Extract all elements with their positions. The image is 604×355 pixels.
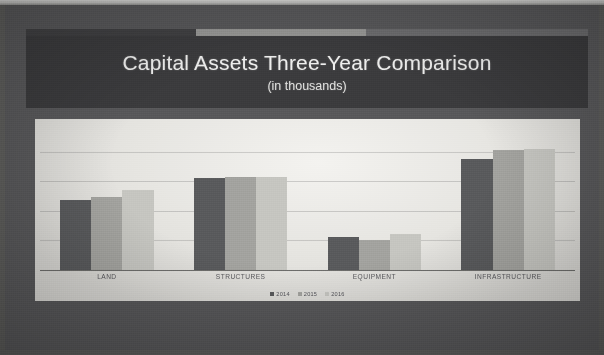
category-axis-labels: LANDSTRUCTURESEQUIPMENTINFRASTRUCTURE <box>40 273 575 287</box>
bar-equipment-2015 <box>359 240 390 270</box>
bar-structures-2015 <box>225 177 256 270</box>
bar-infrastructure-2015 <box>493 150 524 270</box>
chart-legend: 201420152016 <box>35 291 580 297</box>
bar-series-layer <box>40 123 575 271</box>
legend-swatch-icon <box>325 292 329 296</box>
bar-group-land <box>60 122 154 270</box>
legend-item-2014[interactable]: 2014 <box>270 291 289 297</box>
page-subtitle: (in thousands) <box>267 79 346 93</box>
page-title: Capital Assets Three-Year Comparison <box>122 51 491 75</box>
legend-label: 2014 <box>276 291 289 297</box>
bar-group-infrastructure <box>461 122 555 270</box>
plot-area <box>40 123 575 271</box>
bar-land-2015 <box>91 197 122 270</box>
legend-swatch-icon <box>270 292 274 296</box>
bar-equipment-2016 <box>390 234 421 270</box>
slide-surface: Capital Assets Three-Year Comparison (in… <box>5 5 599 350</box>
category-label-infrastructure: INFRASTRUCTURE <box>475 273 542 280</box>
bar-structures-2016 <box>256 177 287 270</box>
legend-item-2016[interactable]: 2016 <box>325 291 344 297</box>
bar-equipment-2014 <box>328 237 359 270</box>
legend-label: 2015 <box>304 291 317 297</box>
bar-group-structures <box>194 122 288 270</box>
bar-infrastructure-2016 <box>524 149 555 270</box>
legend-item-2015[interactable]: 2015 <box>298 291 317 297</box>
bar-land-2016 <box>122 190 153 270</box>
accent-strip <box>26 29 588 36</box>
bar-group-equipment <box>328 122 422 270</box>
slide-photo-frame: Capital Assets Three-Year Comparison (in… <box>0 0 604 355</box>
category-label-equipment: EQUIPMENT <box>353 273 396 280</box>
legend-label: 2016 <box>331 291 344 297</box>
category-label-land: LAND <box>97 273 116 280</box>
legend-swatch-icon <box>298 292 302 296</box>
bar-structures-2014 <box>194 178 225 270</box>
bar-land-2014 <box>60 200 91 270</box>
category-label-structures: STRUCTURES <box>216 273 266 280</box>
chart-panel: LANDSTRUCTURESEQUIPMENTINFRASTRUCTURE 20… <box>35 119 580 301</box>
axis-baseline <box>40 270 575 272</box>
title-banner: Capital Assets Three-Year Comparison (in… <box>26 36 588 108</box>
bar-infrastructure-2014 <box>461 159 492 270</box>
